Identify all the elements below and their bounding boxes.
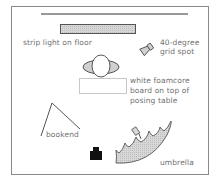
person-topdown-icon (83, 55, 119, 77)
spotlight-icon (140, 42, 154, 55)
strip-light-label: strip light on floor (23, 38, 92, 48)
grid-spot-label-line2: grid spot (160, 47, 194, 57)
bookend-label: bookend (46, 130, 79, 140)
foamcore-label-line3: posing table (130, 96, 177, 106)
strip-light-icon (61, 25, 136, 34)
foamcore-board (80, 79, 127, 94)
umbrella-icon (116, 121, 171, 163)
foamcore-label-line2: board on top of (130, 86, 189, 96)
camera-icon (90, 147, 102, 160)
umbrella-label: umbrella (160, 158, 194, 168)
foamcore-label-line1: white foamcore (130, 76, 190, 86)
